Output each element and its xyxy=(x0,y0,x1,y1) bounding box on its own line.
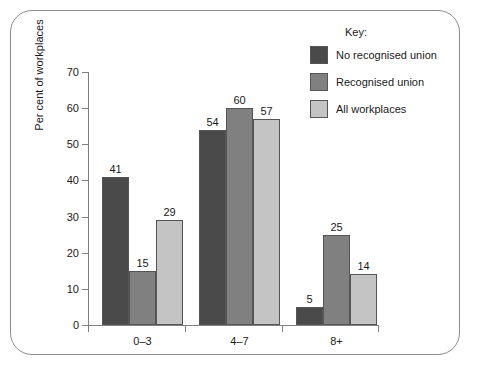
bar-value-label: 60 xyxy=(233,94,245,106)
y-tick-label: 0 xyxy=(73,319,79,331)
plot-area: 010203040506070 41152954605752514 0–34–7… xyxy=(88,72,378,325)
y-tick-mark xyxy=(82,180,88,181)
y-tick-label: 50 xyxy=(67,138,79,150)
legend-swatch xyxy=(310,73,328,91)
x-axis-line xyxy=(88,325,379,326)
chart-figure: Per cent of workplaces 010203040506070 4… xyxy=(0,0,482,377)
legend-title: Key: xyxy=(345,26,367,38)
y-tick-mark xyxy=(82,253,88,254)
y-tick-label: 70 xyxy=(67,66,79,78)
legend-label: Recognised union xyxy=(336,76,424,88)
bar-group: 411529 xyxy=(102,72,183,325)
bar-value-label: 15 xyxy=(136,257,148,269)
bar: 57 xyxy=(253,119,280,325)
y-tick-mark xyxy=(82,72,88,73)
y-tick-mark xyxy=(82,108,88,109)
bar-value-label: 14 xyxy=(357,260,369,272)
y-tick-label: 30 xyxy=(67,211,79,223)
bar-value-label: 41 xyxy=(109,163,121,175)
legend-label: No recognised union xyxy=(336,49,437,61)
x-category-label: 8+ xyxy=(277,335,397,347)
bar-value-label: 54 xyxy=(206,116,218,128)
bar: 14 xyxy=(350,274,377,325)
x-tick-mark xyxy=(185,325,186,332)
bar-value-label: 25 xyxy=(330,221,342,233)
y-tick-label: 10 xyxy=(67,283,79,295)
y-tick-mark xyxy=(82,144,88,145)
bar: 29 xyxy=(156,220,183,325)
bar: 60 xyxy=(226,108,253,325)
bar: 54 xyxy=(199,130,226,325)
legend-swatch xyxy=(310,46,328,64)
x-tick-mark xyxy=(282,325,283,332)
legend-label: All workplaces xyxy=(336,103,406,115)
y-tick-label: 40 xyxy=(67,174,79,186)
y-tick-label: 20 xyxy=(67,247,79,259)
bar: 15 xyxy=(129,271,156,325)
bar: 41 xyxy=(102,177,129,325)
x-tick-mark xyxy=(88,325,89,332)
y-tick-mark xyxy=(82,289,88,290)
bar: 25 xyxy=(323,235,350,325)
y-axis-title: Per cent of workplaces xyxy=(33,10,45,140)
bar-group: 546057 xyxy=(199,72,280,325)
bar-value-label: 57 xyxy=(260,105,272,117)
x-tick-mark xyxy=(378,325,379,332)
bar: 5 xyxy=(296,307,323,325)
bar-value-label: 5 xyxy=(306,293,312,305)
bar-value-label: 29 xyxy=(163,206,175,218)
y-tick-label: 60 xyxy=(67,102,79,114)
legend-swatch xyxy=(310,100,328,118)
y-tick-mark xyxy=(82,217,88,218)
